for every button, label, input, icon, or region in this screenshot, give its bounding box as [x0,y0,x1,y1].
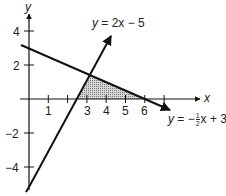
line-y-neg-half-x-plus-3 [21,45,170,110]
y-tick-neg2: −2 [5,128,19,140]
y-axis-label: y [25,1,31,13]
equation-label-line2: y = −12x + 3 [168,112,226,127]
fraction-one-half: 12 [196,112,200,127]
equation-label-line1: y = 2x − 5 [92,17,145,29]
x-tick-5: 5 [122,105,129,117]
x-tick-6: 6 [141,105,148,117]
y-tick-neg4: −4 [5,162,19,174]
y-tick-4: 4 [13,26,20,38]
x-tick-1: 1 [45,105,52,117]
x-tick-3: 3 [84,105,91,117]
line-y-2x-minus-5 [29,36,111,187]
x-axis-label: x [204,92,210,104]
x-tick-4: 4 [103,105,110,117]
y-tick-2: 2 [13,60,20,72]
line-y-2x-minus-5-tail [26,187,29,192]
